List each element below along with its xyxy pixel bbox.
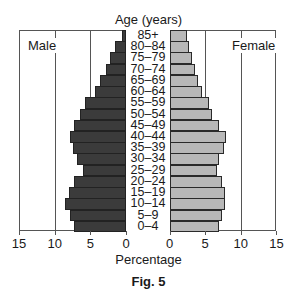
tick-mark: [241, 231, 242, 235]
female-bar: [170, 221, 220, 233]
male-bar: [70, 210, 126, 222]
x-tick-label-female: 5: [195, 236, 215, 251]
female-bar: [170, 97, 210, 109]
x-tick-label-male: 10: [45, 236, 65, 251]
x-tick-label-female: 0: [160, 236, 180, 251]
x-tick-label-male: 0: [116, 236, 136, 251]
tick-mark: [55, 231, 56, 235]
male-label: Male: [26, 38, 58, 53]
chart-title: Age (years): [0, 12, 297, 27]
male-bar: [85, 97, 126, 109]
male-bar: [115, 41, 126, 53]
male-bar: [100, 75, 126, 87]
female-bar: [170, 131, 226, 143]
male-bar: [74, 120, 126, 132]
male-bar: [83, 165, 127, 177]
zero-tick: [126, 231, 127, 235]
gridline-female-10: [241, 30, 242, 232]
gridline-male-10: [55, 30, 56, 232]
male-bar: [106, 64, 126, 76]
female-bar: [170, 86, 202, 98]
female-bar: [170, 64, 195, 76]
x-tick-label-male: 15: [9, 236, 29, 251]
male-bar: [95, 86, 126, 98]
tick-mark: [19, 231, 20, 235]
female-bar: [170, 153, 220, 165]
male-bar: [69, 187, 126, 199]
male-bar: [70, 131, 126, 143]
tick-mark: [276, 231, 277, 235]
female-bar: [170, 52, 193, 64]
female-bar: [170, 120, 220, 132]
male-bar: [80, 109, 126, 121]
female-bar: [170, 41, 189, 53]
female-bar: [170, 142, 224, 154]
female-label: Female: [230, 38, 277, 53]
female-bar: [170, 109, 213, 121]
male-bar: [110, 52, 126, 64]
tick-mark: [205, 231, 206, 235]
tick-mark: [90, 231, 91, 235]
male-bar: [74, 221, 126, 233]
x-tick-label-male: 5: [80, 236, 100, 251]
male-bar: [77, 153, 126, 165]
figure-caption: Fig. 5: [0, 274, 297, 289]
female-bar: [170, 198, 226, 210]
male-bar: [74, 176, 126, 188]
female-bar: [170, 75, 199, 87]
x-axis-label: Percentage: [0, 252, 297, 267]
zero-tick: [170, 231, 171, 235]
female-bar: [170, 30, 187, 42]
age-group-label: 0–4: [126, 221, 170, 232]
female-bar: [170, 165, 217, 177]
female-bar: [170, 187, 226, 199]
x-tick-label-female: 15: [266, 236, 286, 251]
male-bar: [73, 142, 126, 154]
male-bar: [65, 198, 126, 210]
x-tick-label-female: 10: [231, 236, 251, 251]
female-bar: [170, 210, 222, 222]
female-bar: [170, 176, 222, 188]
